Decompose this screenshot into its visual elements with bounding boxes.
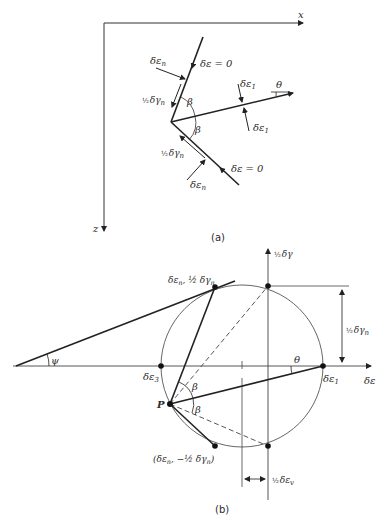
figure-a: x z θ β β δεn δε = 0 ½δγn <box>92 9 304 243</box>
bottom-point-label: (δεn, −½ δγn) <box>153 454 215 466</box>
de-zero-bottom-label: δε = 0 <box>231 163 264 174</box>
beta-label-b-bottom: β <box>194 404 201 415</box>
top-point-label: δεn, ½ δγn <box>168 275 215 287</box>
psi-label: ψ <box>51 355 59 366</box>
dashed-pole-to-top <box>170 286 268 404</box>
theta-label-a: θ <box>276 79 282 90</box>
beta-label-b-top: β <box>191 381 198 392</box>
de1-top-label: δε1 <box>240 78 256 91</box>
de-n-top-label: δεn <box>150 55 166 68</box>
point-top-axis <box>265 283 271 289</box>
half-dg-top-label: ½δγn <box>142 95 166 107</box>
caption-a: (a) <box>211 232 225 243</box>
upper-slip-line <box>171 37 203 122</box>
half-dg-top-arrow <box>172 84 181 107</box>
point-pole-p <box>167 401 173 407</box>
dashed-pole-to-bottom <box>170 404 268 446</box>
caption-b: (b) <box>215 504 229 515</box>
theta-label-b: θ <box>294 354 300 365</box>
de-n-top-arrow <box>156 68 185 79</box>
theta-arc-b <box>291 366 292 374</box>
half-dg-n-dim-label: ½δγn <box>346 325 370 337</box>
beta-label-top: β <box>186 96 193 107</box>
point-bottom-de-n <box>212 443 218 449</box>
beta-label-bottom: β <box>194 124 201 135</box>
half-de-v-dim-label: ½δεv <box>272 475 294 487</box>
tangent-line <box>16 281 235 366</box>
figure-b: ψ ½δγn ½δεv β β θ <box>13 249 375 515</box>
half-dg-axis-label: ½δγ <box>274 249 293 259</box>
de1-bottom-arrow <box>244 108 249 131</box>
de-zero-top-label: δε = 0 <box>200 58 233 69</box>
z-axis-label: z <box>92 223 99 234</box>
point-de1 <box>320 363 326 369</box>
de1-label: δε1 <box>323 373 339 386</box>
psi-arc <box>47 354 49 366</box>
de-n-bottom-label: δεn <box>190 179 206 192</box>
de-axis-label: δε <box>364 375 375 386</box>
point-bottom-axis <box>265 443 271 449</box>
pole-to-bottom-point <box>170 404 215 446</box>
de3-label: δε3 <box>143 371 159 384</box>
point-de3 <box>158 363 164 369</box>
pole-label: P <box>156 399 165 410</box>
de-n-bottom-arrow <box>187 160 205 180</box>
x-axis-label: x <box>298 9 304 20</box>
mohr-circle-figure: x z θ β β δεn δε = 0 ½δγn <box>0 0 385 524</box>
beta-arc-b-bottom <box>192 398 194 413</box>
de1-bottom-label: δε1 <box>253 122 269 135</box>
half-dg-bottom-label: ½δγn <box>161 148 185 160</box>
